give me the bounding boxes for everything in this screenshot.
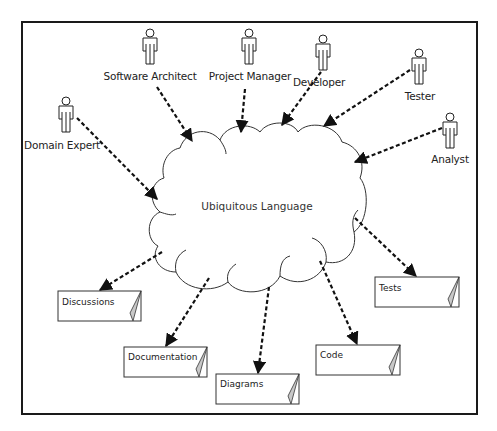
note-label-documentation: Documentation [128, 352, 197, 362]
actor-analyst-icon [443, 113, 457, 148]
arrow-to-code [320, 261, 357, 344]
note-label-code: Code [320, 350, 343, 360]
note-label-tests: Tests [379, 283, 401, 293]
actor-tester-icon [412, 49, 426, 84]
arrow-to-diagrams [258, 287, 269, 373]
arrow-to-tests [355, 218, 416, 276]
diagram-canvas [0, 0, 497, 431]
actor-label-domain-expert: Domain Expert [24, 139, 100, 151]
actor-label-software-architect: Software Architect [103, 70, 196, 82]
center-concept-label: Ubiquitous Language [201, 200, 312, 212]
arrow-analyst [355, 128, 442, 162]
arrow-to-discussions [100, 252, 162, 290]
actor-project-manager-icon [242, 29, 256, 64]
actor-developer-icon [316, 35, 330, 70]
note-label-discussions: Discussions [62, 297, 115, 307]
actor-label-developer: Developer [293, 76, 345, 88]
actor-label-project-manager: Project Manager [209, 70, 291, 82]
actor-label-tester: Tester [405, 90, 435, 102]
arrow-domain-expert [77, 118, 157, 199]
actor-domain-expert-icon [59, 97, 73, 132]
arrow-software-architect [157, 87, 192, 141]
actor-label-analyst: Analyst [431, 153, 469, 165]
note-label-diagrams: Diagrams [220, 379, 263, 389]
actor-software-architect-icon [143, 29, 157, 64]
